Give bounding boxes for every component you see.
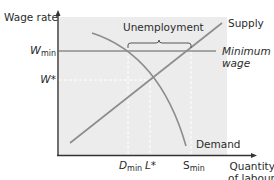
minimum-wage-label: Minimumwage xyxy=(222,45,271,69)
x-axis-label-line2: of labour xyxy=(228,172,274,180)
smin-sub: min xyxy=(190,164,205,173)
x-axis-arrow-icon xyxy=(251,153,257,158)
x-axis-label-line1: Quantity xyxy=(228,160,274,172)
unemployment-label: Unemployment xyxy=(123,22,204,33)
wmin-main: W xyxy=(30,44,41,57)
dmin-tick-label: Dmin xyxy=(119,160,142,173)
dmin-main: D xyxy=(119,159,127,171)
demand-label: Demand xyxy=(196,139,241,150)
minimum-wage-line1: Minimum xyxy=(222,45,271,57)
minimum-wage-line2: wage xyxy=(222,57,271,69)
smin-main: S xyxy=(183,159,190,171)
wmin-tick-label: Wmin xyxy=(30,45,56,58)
dmin-sub: min xyxy=(127,164,142,173)
x-axis-label: Quantityof labour xyxy=(228,160,274,180)
wstar-tick-label: W* xyxy=(40,74,56,85)
wmin-sub: min xyxy=(41,49,56,58)
lstar-tick-label: L* xyxy=(145,160,156,171)
smin-tick-label: Smin xyxy=(183,160,205,173)
y-axis-label: Wage rate xyxy=(4,12,58,23)
supply-label: Supply xyxy=(228,18,264,29)
